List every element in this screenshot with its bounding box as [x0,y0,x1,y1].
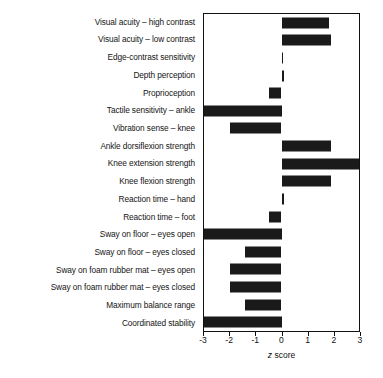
bar [204,229,282,240]
x-tick-label: -2 [225,336,233,345]
bars-layer [204,14,359,331]
bar-row [204,84,359,102]
category-label: Sway on foam rubber mat – eyes open [0,261,200,279]
category-label: Knee flexion strength [0,172,200,190]
plot-area [203,13,360,332]
category-label: Sway on foam rubber mat – eyes closed [0,279,200,297]
category-label: Knee extension strength [0,155,200,173]
category-label: Sway on floor – eyes open [0,226,200,244]
bar-row [204,14,359,32]
bar-row [204,137,359,155]
x-tick-label: -1 [252,336,260,345]
bar-row [204,67,359,85]
bar-row [204,243,359,261]
category-label: Maximum balance range [0,297,200,315]
bar-row [204,278,359,296]
figure-container: Visual acuity – high contrastVisual acui… [0,0,383,378]
bar-row [204,208,359,226]
bar [282,53,283,64]
x-tick-label: 1 [305,336,310,345]
bar [230,264,282,275]
category-label: Coordinated stability [0,314,200,332]
category-label: Proprioception [0,84,200,102]
category-label-column: Visual acuity – high contrastVisual acui… [0,13,200,332]
bar-row [204,155,359,173]
bar [282,158,360,169]
bar-row [204,313,359,331]
bar-row [204,261,359,279]
bar-row [204,172,359,190]
category-label: Vibration sense – knee [0,119,200,137]
bar [204,105,282,116]
category-label: Sway on floor – eyes closed [0,243,200,261]
category-label: Visual acuity – high contrast [0,13,200,31]
bar [245,246,281,257]
bar [230,281,282,292]
category-label: Tactile sensitivity – ankle [0,102,200,120]
bar [230,123,282,134]
category-label: Depth perception [0,66,200,84]
category-label: Edge-contrast sensitivity [0,48,200,66]
category-label: Reaction time – foot [0,208,200,226]
bar [204,317,282,328]
bar-row [204,190,359,208]
bar [282,141,331,152]
category-label: Reaction time – hand [0,190,200,208]
category-label: Visual acuity – low contrast [0,31,200,49]
bar-row [204,225,359,243]
bar [282,17,330,28]
x-tick-label: 0 [279,336,284,345]
bar [282,176,331,187]
bar [282,70,284,81]
bar-row [204,32,359,50]
x-tick-label: -3 [199,336,207,345]
bar [269,88,282,99]
x-axis-title: z score [203,350,360,360]
bar [269,211,282,222]
x-tick-label: 2 [331,336,336,345]
bar [245,299,281,310]
bar-row [204,120,359,138]
bar [282,193,284,204]
bar-row [204,102,359,120]
bar-row [204,296,359,314]
bar-row [204,49,359,67]
x-tick-label: 3 [358,336,363,345]
bar [282,35,331,46]
category-label: Ankle dorsiflexion strength [0,137,200,155]
x-axis-title-text: score [272,350,295,360]
